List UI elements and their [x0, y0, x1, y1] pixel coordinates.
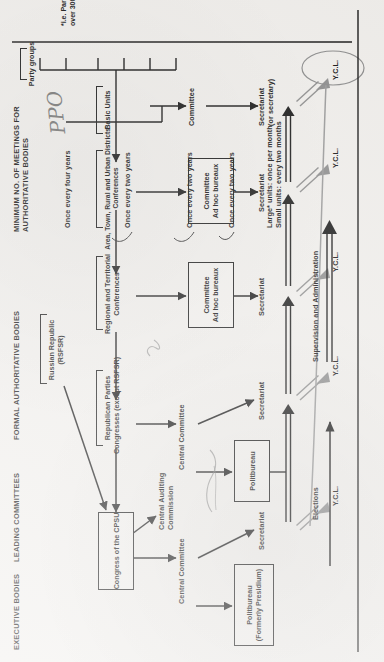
- bracket-label-russian-republic: Russian Republic (RSFSR): [48, 310, 66, 390]
- legend-label-elections: Elections: [312, 487, 321, 520]
- diagram-frame: EXECUTIVE BODIES LEADING COMMITTEES FORM…: [0, 0, 384, 662]
- handwriting-ppo-annotation: PPO: [42, 90, 70, 136]
- bracket-area-town-rural: [96, 150, 103, 228]
- column-header-executive-bodies: EXECUTIVE BODIES: [12, 574, 21, 650]
- frequency-republican: Once every two years: [124, 152, 133, 228]
- bracket-label-area-town-rural: Area, Town, Rural and Urban Districts' C…: [104, 126, 121, 250]
- label-ycl-1: Y.C.L.: [332, 486, 341, 506]
- label-central-committee-1: Central Committee: [178, 538, 187, 604]
- frequency-area: Once every two years: [228, 152, 237, 228]
- label-ycl-2: Y.C.L.: [332, 356, 341, 376]
- footnote-asterisk: *i.e. Party organisations over 300 stron…: [60, 0, 78, 26]
- bracket-republican-parties: [96, 370, 103, 446]
- column-header-leading-committees: LEADING COMMITTEES: [12, 473, 21, 562]
- bracket-party-groups: [20, 48, 27, 80]
- box-politbureau-2[interactable]: Politbureau: [234, 440, 270, 502]
- label-ycl-4: Y.C.L.: [332, 148, 341, 168]
- bracket-label-basic-units: Basic Units: [104, 82, 113, 138]
- box-committee-adhoc-1[interactable]: Committee Ad hoc bureaux: [188, 262, 234, 328]
- bracket-basic-units: [96, 86, 103, 134]
- label-secretariat-2: Secretariat: [258, 382, 267, 420]
- label-ycl-3: Y.C.L.: [332, 252, 341, 272]
- label-secretariat-1: Secretariat: [258, 512, 267, 550]
- diagram-canvas: EXECUTIVE BODIES LEADING COMMITTEES FORM…: [0, 0, 384, 662]
- column-header-minimum-meetings: MINIMUM NO. OF MEETINGS FOR AUTHORITATIV…: [12, 106, 31, 232]
- label-central-committee-2: Central Committee: [178, 404, 187, 470]
- label-central-auditing-commission: Central Auditing Commission: [158, 473, 176, 530]
- box-congress-cpsu[interactable]: Congress of the CPSU: [98, 512, 134, 590]
- bracket-label-republican-parties: Republican Parties Congresses (except RS…: [104, 362, 122, 454]
- legend-label-supervision: Supervision and Administration: [312, 251, 321, 362]
- label-secretariat-5: Secretariat (or secretary): [258, 79, 276, 126]
- frequency-regional: Once every two years: [186, 152, 195, 228]
- bracket-regional-territorial: [96, 256, 103, 330]
- bracket-russian-republic: [40, 314, 47, 384]
- frequency-basic-units: Large* units: once per month Small units…: [266, 121, 284, 228]
- box-politbureau[interactable]: Politbureau (Formerly Presidium): [234, 564, 274, 646]
- bracket-label-regional-territorial: Regional and Territorial Conferences: [104, 250, 122, 338]
- bracket-label-party-groups: Party groups: [28, 36, 37, 92]
- column-header-formal-authoritative-bodies: FORMAL AUTHORITATIVE BODIES: [12, 311, 21, 440]
- label-secretariat-3: Secretariat: [258, 278, 267, 316]
- label-ycl-5-circled: Y.C.L.: [332, 60, 341, 80]
- frequency-congress: Once every four years: [64, 150, 73, 228]
- label-committee-basic: Committee: [188, 88, 197, 126]
